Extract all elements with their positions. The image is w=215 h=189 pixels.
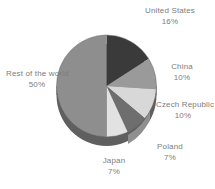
pie-label-united-states-name: United States <box>142 6 198 17</box>
pie-label-poland-name: Poland <box>146 142 194 153</box>
pie-label-rest-of-world-name: Rest of the world <box>6 69 68 80</box>
pie-chart: United States 16% China 10% Czech Republ… <box>0 0 215 189</box>
pie-label-poland: Poland 7% <box>146 142 194 163</box>
pie-label-china: China 10% <box>158 62 206 83</box>
pie-label-japan-name: Japan <box>94 156 134 167</box>
pie-label-rest-of-world: Rest of the world 50% <box>6 69 68 90</box>
pie-label-poland-value: 7% <box>146 153 194 164</box>
pie-label-czech-republic: Czech Republic 10% <box>156 100 210 121</box>
pie-label-united-states-value: 16% <box>142 17 198 28</box>
pie-slices <box>56 35 156 137</box>
pie-label-china-name: China <box>158 62 206 73</box>
pie-label-japan: Japan 7% <box>94 156 134 177</box>
pie-label-china-value: 10% <box>158 73 206 84</box>
pie-label-japan-value: 7% <box>94 167 134 178</box>
pie-label-czech-republic-value: 10% <box>156 111 210 122</box>
pie-label-united-states: United States 16% <box>142 6 198 27</box>
pie-label-rest-of-world-value: 50% <box>6 80 68 91</box>
pie-label-czech-republic-name: Czech Republic <box>156 100 210 111</box>
